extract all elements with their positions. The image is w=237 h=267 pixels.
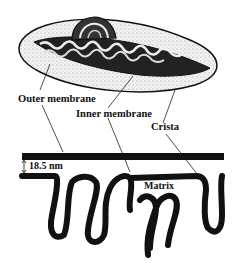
label-outer-membrane: Outer membrane [18,93,96,104]
gap-arrow [22,160,26,173]
label-matrix: Matrix [144,180,174,191]
label-inner-membrane: Inner membrane [76,108,152,119]
label-gap-measure: 18.5 nm [29,160,63,171]
mitochondrion-illustration [19,17,217,92]
inner-membrane-y-fold [140,196,177,255]
inner-membrane-folds [22,176,222,242]
mitochondrion-diagram [0,0,237,267]
label-crista: Crista [151,121,179,132]
outer-membrane-bar [22,153,224,160]
